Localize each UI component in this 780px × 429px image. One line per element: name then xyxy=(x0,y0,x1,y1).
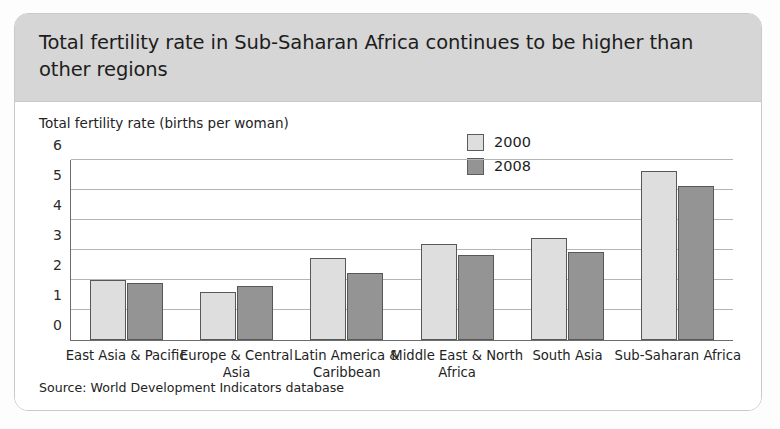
y-axis-tick-label: 4 xyxy=(53,197,62,213)
bar-group: Europe & Central Asia xyxy=(181,160,291,340)
bar-2000[interactable] xyxy=(421,244,457,340)
plot-area: 0123456East Asia & PacificEurope & Centr… xyxy=(70,160,733,341)
y-axis-tick-label: 2 xyxy=(53,257,62,273)
legend-label: 2000 xyxy=(494,134,531,150)
y-axis-tick-label: 5 xyxy=(53,167,62,183)
y-axis-title: Total fertility rate (births per woman) xyxy=(39,115,289,131)
chart-title: Total fertility rate in Sub-Saharan Afri… xyxy=(39,29,729,83)
bar-2008[interactable] xyxy=(458,255,494,341)
bar-2008[interactable] xyxy=(678,186,714,341)
bar-2000[interactable] xyxy=(641,171,677,341)
chart-page: Total fertility rate in Sub-Saharan Afri… xyxy=(0,0,780,429)
chart-body: Total fertility rate (births per woman) … xyxy=(15,102,761,411)
y-axis-tick-label: 3 xyxy=(53,227,62,243)
chart-title-band: Total fertility rate in Sub-Saharan Afri… xyxy=(15,14,761,102)
bar-group: Middle East & North Africa xyxy=(402,160,512,340)
legend-swatch-icon xyxy=(467,134,484,151)
legend-item-2000[interactable]: 2000 xyxy=(467,130,637,154)
bar-2008[interactable] xyxy=(237,286,273,340)
bar-2008[interactable] xyxy=(347,273,383,341)
bar-2000[interactable] xyxy=(310,258,346,341)
bar-2000[interactable] xyxy=(200,292,236,340)
y-axis-tick-label: 1 xyxy=(53,287,62,303)
chart-source-note: Source: World Development Indicators dat… xyxy=(39,380,344,395)
bar-2008[interactable] xyxy=(568,252,604,341)
bar-2000[interactable] xyxy=(531,238,567,340)
y-axis-tick-label: 6 xyxy=(53,137,62,153)
bar-group: East Asia & Pacific xyxy=(71,160,181,340)
x-axis-category-label: Sub-Saharan Africa xyxy=(608,347,748,364)
bar-2008[interactable] xyxy=(127,283,163,340)
bar-group: Sub-Saharan Africa xyxy=(623,160,733,340)
y-axis-tick-label: 0 xyxy=(53,317,62,333)
bar-group: Latin America & Caribbean xyxy=(292,160,402,340)
bar-group: South Asia xyxy=(512,160,622,340)
chart-card: Total fertility rate in Sub-Saharan Afri… xyxy=(14,13,762,411)
bar-2000[interactable] xyxy=(90,280,126,340)
